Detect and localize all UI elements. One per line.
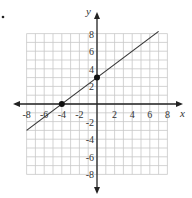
y-axis-label: y [85, 5, 91, 17]
x-tick-label: -8 [22, 109, 30, 120]
x-tick-label: 2 [112, 109, 117, 120]
y-axis-down-arrow-icon [94, 187, 100, 194]
data-point [94, 75, 100, 81]
x-axis-left-arrow-icon [13, 101, 20, 107]
y-tick-label: -8 [86, 169, 94, 180]
bullet-dot [2, 16, 5, 19]
x-tick-label: -4 [58, 109, 66, 120]
y-tick-label: 8 [89, 29, 94, 40]
x-tick-label: 8 [165, 109, 170, 120]
y-tick-label: 4 [89, 64, 94, 75]
y-tick-label: 6 [89, 46, 94, 57]
y-tick-label: -4 [86, 134, 94, 145]
y-axis-up-arrow-icon [94, 12, 100, 19]
data-point [59, 101, 65, 107]
y-axis [94, 12, 100, 194]
x-tick-label: -2 [75, 109, 83, 120]
y-tick-label: -6 [86, 152, 94, 163]
coordinate-plane: -8-6-4-224688642-2-4-6-8 x y [0, 0, 192, 198]
x-axis-label: x [179, 107, 185, 119]
x-tick-label: 6 [147, 109, 152, 120]
x-tick-label: 4 [130, 109, 135, 120]
y-tick-label: -2 [86, 117, 94, 128]
x-axis [13, 101, 183, 107]
